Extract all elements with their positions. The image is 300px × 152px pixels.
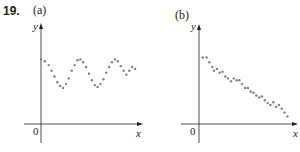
data-point: [235, 79, 237, 81]
data-point: [211, 66, 213, 68]
panel-a-origin: 0: [33, 125, 39, 137]
panel-b-ylabel: y: [190, 20, 196, 32]
data-point: [278, 104, 280, 106]
data-point: [244, 87, 246, 89]
data-point: [59, 85, 61, 87]
data-point: [286, 115, 288, 117]
data-point: [82, 61, 84, 63]
data-point: [53, 75, 55, 77]
charts: y 0 x y 0 x: [0, 0, 300, 152]
data-point: [272, 101, 274, 103]
data-point: [264, 99, 266, 101]
data-point: [125, 73, 127, 75]
data-point: [91, 79, 93, 81]
data-point: [233, 77, 235, 79]
data-point: [281, 108, 283, 110]
data-point: [238, 79, 240, 81]
panel-b-points: [202, 56, 289, 117]
data-point: [266, 102, 268, 104]
data-point: [131, 66, 133, 68]
data-point: [221, 71, 223, 73]
data-point: [99, 83, 101, 85]
data-point: [213, 70, 215, 72]
data-point: [120, 65, 122, 67]
data-point: [68, 77, 70, 79]
panel-a-axes: [24, 23, 143, 143]
data-point: [114, 58, 116, 60]
data-point: [50, 70, 52, 72]
data-point: [71, 70, 73, 72]
data-point: [73, 64, 75, 66]
data-point: [44, 60, 46, 62]
data-point: [94, 84, 96, 86]
data-point: [202, 56, 204, 58]
panel-a-ylabel: y: [32, 20, 38, 32]
data-point: [255, 94, 257, 96]
panel-b-origin: 0: [190, 125, 196, 137]
data-point: [48, 64, 50, 66]
data-point: [261, 95, 263, 97]
data-point: [105, 72, 107, 74]
data-point: [65, 83, 67, 85]
panel-a-points: [40, 58, 137, 89]
data-point: [205, 56, 207, 58]
panel-b-xlabel: x: [292, 127, 298, 139]
data-point: [250, 91, 252, 93]
panel-a-xlabel: x: [135, 127, 141, 139]
data-point: [128, 70, 130, 72]
data-point: [247, 87, 249, 89]
data-point: [40, 58, 42, 60]
data-point: [85, 66, 87, 68]
data-point: [219, 72, 221, 74]
data-point: [252, 92, 254, 94]
data-point: [62, 87, 64, 89]
data-point: [56, 81, 58, 83]
data-point: [102, 78, 104, 80]
data-point: [96, 86, 98, 88]
data-point: [258, 96, 260, 98]
data-point: [224, 75, 226, 77]
data-point: [76, 59, 78, 61]
panel-b-axes: [181, 24, 298, 143]
data-point: [216, 68, 218, 70]
data-point: [122, 70, 124, 72]
data-point: [134, 68, 136, 70]
data-point: [88, 73, 90, 75]
data-point: [108, 66, 110, 68]
data-point: [79, 58, 81, 60]
data-point: [208, 61, 210, 63]
data-point: [111, 61, 113, 63]
data-point: [117, 60, 119, 62]
data-point: [275, 106, 277, 108]
data-point: [269, 104, 271, 106]
data-point: [230, 80, 232, 82]
data-point: [227, 77, 229, 79]
data-point: [283, 111, 285, 113]
data-point: [241, 83, 243, 85]
